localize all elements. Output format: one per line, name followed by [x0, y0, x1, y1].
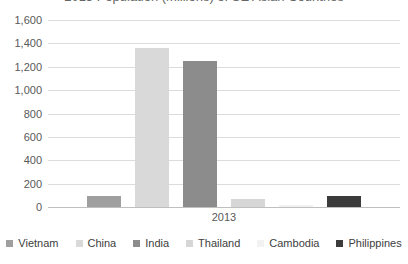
y-axis-tick-label: 0 [0, 200, 42, 214]
legend-label: Thailand [198, 237, 240, 249]
x-axis-line [48, 207, 400, 208]
bar-cambodia [279, 205, 313, 207]
gridline [48, 114, 400, 115]
y-axis-tick-label: 600 [0, 130, 42, 144]
gridline [48, 90, 400, 91]
legend-swatch-icon [76, 240, 83, 247]
legend-item-philippines: Philippines [336, 237, 401, 249]
y-axis-tick-label: 200 [0, 177, 42, 191]
gridline [48, 160, 400, 161]
gridline [48, 67, 400, 68]
chart-canvas: 2013 Population (millions) of SE Asian C… [0, 0, 408, 264]
y-axis-tick-label: 800 [0, 107, 42, 121]
legend-swatch-icon [186, 240, 193, 247]
y-axis-tick-label: 1,200 [0, 60, 42, 74]
bar-philippines [327, 196, 361, 207]
legend-label: China [88, 237, 117, 249]
y-axis-tick-label: 1,400 [0, 36, 42, 50]
legend-label: Philippines [348, 237, 401, 249]
legend-swatch-icon [133, 240, 140, 247]
legend-label: India [145, 237, 169, 249]
legend-swatch-icon [6, 240, 13, 247]
legend-item-china: China [76, 237, 117, 249]
x-axis-category-label: 2013 [48, 211, 400, 223]
legend-swatch-icon [336, 240, 343, 247]
chart-legend: VietnamChinaIndiaThailandCambodiaPhilipp… [0, 237, 408, 249]
legend-item-cambodia: Cambodia [257, 237, 319, 249]
bar-vietnam [87, 196, 121, 207]
gridline [48, 137, 400, 138]
legend-item-thailand: Thailand [186, 237, 240, 249]
gridline [48, 184, 400, 185]
bar-thailand [231, 199, 265, 207]
bar-india [183, 61, 217, 207]
legend-label: Vietnam [18, 237, 58, 249]
y-axis-tick-label: 1,600 [0, 13, 42, 27]
gridline [48, 43, 400, 44]
legend-swatch-icon [257, 240, 264, 247]
y-axis-tick-label: 400 [0, 153, 42, 167]
y-axis-tick-label: 1,000 [0, 83, 42, 97]
legend-item-india: India [133, 237, 169, 249]
bar-chart: 02004006008001,0001,2001,4001,600 [0, 0, 408, 264]
legend-label: Cambodia [269, 237, 319, 249]
legend-item-vietnam: Vietnam [6, 237, 58, 249]
bar-china [135, 48, 169, 207]
gridline [48, 20, 400, 21]
